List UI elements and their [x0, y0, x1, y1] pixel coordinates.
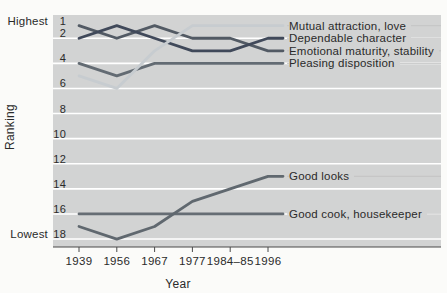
legend-label-dependable-character: Dependable character	[289, 32, 411, 44]
x-tick-label: 1977	[179, 255, 206, 267]
legend-label-good-cook: Good cook, housekeeper	[289, 208, 427, 220]
y-tick-label: 2	[38, 27, 66, 39]
x-tick-label: 1996	[255, 255, 282, 267]
y-tick-label: 18	[38, 228, 66, 240]
y-axis-title: Ranking	[3, 104, 17, 150]
y-tick-label: 6	[38, 77, 66, 89]
y-tick-label: 4	[38, 52, 66, 64]
legend-label-mutual-attraction: Mutual attraction, love	[289, 20, 411, 32]
x-tick-label: 1956	[103, 255, 130, 267]
x-tick-label: 1984–85	[207, 255, 254, 267]
y-tick-label: 12	[38, 153, 66, 165]
x-tick-label: 1939	[66, 255, 93, 267]
x-axis-ticks	[79, 247, 268, 252]
y-tick-label: 10	[38, 128, 66, 140]
x-tick-label: 1967	[141, 255, 168, 267]
legend-label-pleasing-disposition: Pleasing disposition	[289, 57, 400, 69]
y-tick-label: 8	[38, 103, 66, 115]
y-tick-label: 16	[38, 203, 66, 215]
legend-label-emotional-maturity: Emotional maturity, stability	[289, 45, 439, 57]
y-tick-label: 1	[38, 15, 66, 27]
legend-label-good-looks: Good looks	[289, 170, 354, 182]
x-axis-title: Year	[165, 277, 190, 291]
figure-canvas: Highest Lowest Ranking 1 2 4 6 8 10 12 1…	[0, 0, 447, 293]
y-tick-label: 14	[38, 178, 66, 190]
